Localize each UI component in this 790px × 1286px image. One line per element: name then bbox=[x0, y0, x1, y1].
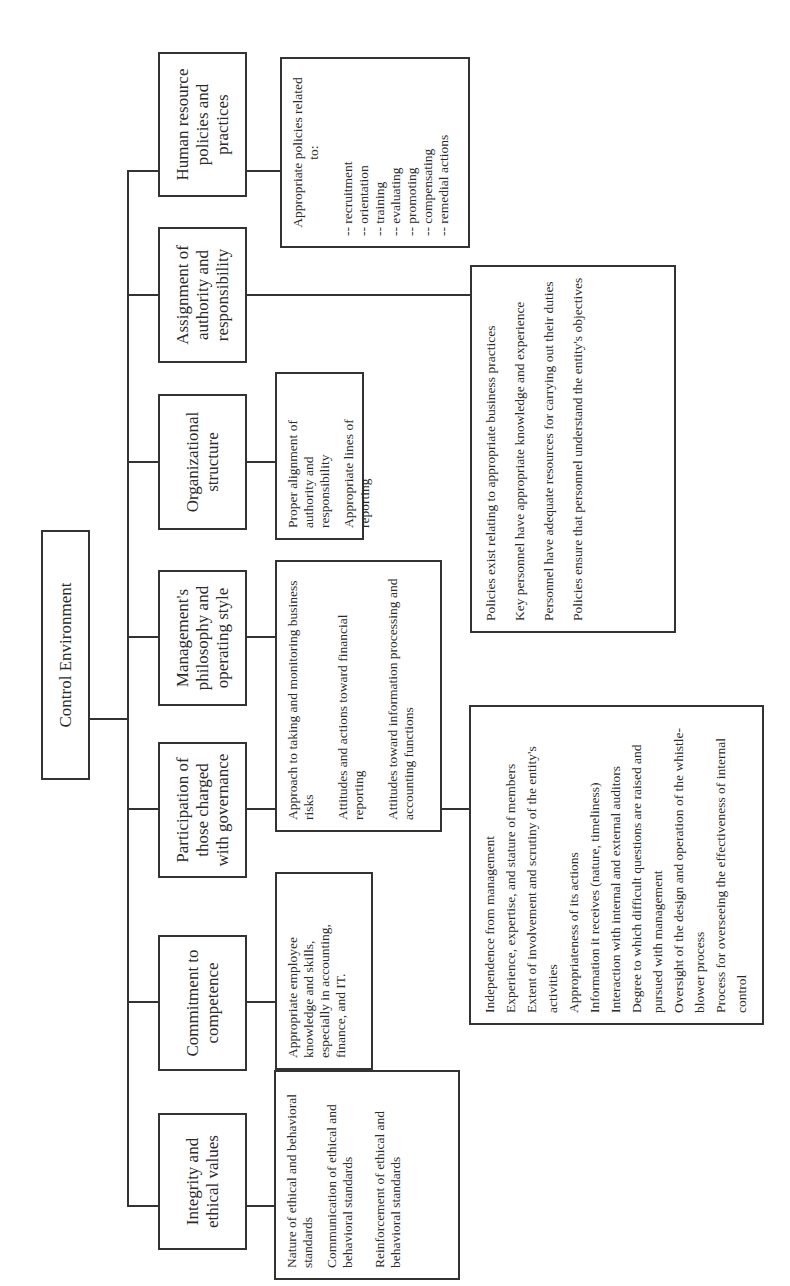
details-organizational: Proper alignment of authority and respon… bbox=[275, 372, 364, 540]
detail-item: Information it receives (nature, timelin… bbox=[584, 717, 605, 1013]
detail-item: Appropriate lines of reporting bbox=[341, 384, 373, 528]
spine-line bbox=[127, 171, 129, 1207]
node-label: Commitment to competence bbox=[183, 945, 223, 1061]
connector-assignment-details bbox=[247, 294, 470, 296]
connector-management bbox=[127, 636, 158, 638]
detail-item: Communication of ethical and behavioral … bbox=[324, 1082, 356, 1268]
detail-heading: Appropriate policies related to: bbox=[290, 69, 322, 236]
detail-item: Process for overseeing the effectiveness… bbox=[710, 717, 752, 1013]
connector-organizational-details bbox=[247, 461, 275, 463]
node-label: Management's philosophy and operating st… bbox=[173, 580, 233, 696]
node-label: Human resource policies and practices bbox=[173, 62, 233, 187]
node-label: Assignment of authority and responsibili… bbox=[173, 237, 233, 353]
connector-hr-details bbox=[247, 170, 280, 172]
detail-item: Degree to which difficult questions are … bbox=[626, 717, 668, 1013]
connector-organizational bbox=[127, 461, 158, 463]
node-label: Integrity and ethical values bbox=[183, 1123, 223, 1240]
node-organizational-structure: Organizational structure bbox=[158, 394, 247, 530]
node-label: Organizational structure bbox=[183, 404, 223, 520]
detail-item: Nature of ethical and behavioral standar… bbox=[284, 1082, 316, 1268]
details-integrity: Nature of ethical and behavioral standar… bbox=[274, 1070, 460, 1280]
control-environment-diagram: Control Environment Integrity and ethica… bbox=[0, 0, 790, 1286]
detail-item: Experience, expertise, and stature of me… bbox=[500, 717, 521, 1013]
detail-item: Attitudes and actions toward financial r… bbox=[335, 572, 367, 820]
node-commitment-to-competence: Commitment to competence bbox=[158, 935, 247, 1071]
details-competence: Appropriate employee knowledge and skill… bbox=[275, 872, 373, 1070]
detail-item: Policies ensure that personnel understan… bbox=[567, 277, 588, 621]
node-participation-governance: Participation of those charged with gove… bbox=[158, 742, 247, 878]
detail-item: Oversight of the design and operation of… bbox=[668, 717, 710, 1013]
node-integrity-ethical-values: Integrity and ethical values bbox=[158, 1113, 247, 1250]
detail-item: Appropriateness of its actions bbox=[563, 717, 584, 1013]
connector-integrity-details bbox=[247, 1205, 274, 1207]
node-human-resource-policies: Human resource policies and practices bbox=[158, 52, 247, 197]
node-label: Participation of those charged with gove… bbox=[173, 752, 233, 868]
detail-item: Extent of involvement and scrutiny of th… bbox=[521, 717, 563, 1013]
details-assignment: Policies exist relating to appropriate b… bbox=[470, 265, 676, 633]
detail-item: Personnel have adequate resources for ca… bbox=[538, 277, 559, 621]
root-label: Control Environment bbox=[56, 583, 76, 728]
detail-item: Interaction with internal and external a… bbox=[605, 717, 626, 1013]
detail-item: -- remedial actions bbox=[436, 69, 452, 236]
root-node-control-environment: Control Environment bbox=[41, 530, 90, 780]
detail-item: Policies exist relating to appropriate b… bbox=[480, 277, 501, 621]
detail-item: Reinforcement of ethical and behavioral … bbox=[372, 1082, 404, 1268]
details-hr: Appropriate policies related to: -- recr… bbox=[280, 57, 470, 248]
details-governance: Independence from management Experience,… bbox=[469, 705, 764, 1025]
connector-assignment bbox=[127, 294, 158, 296]
detail-item: Key personnel have appropriate knowledge… bbox=[509, 277, 530, 621]
detail-item: Attitudes toward information processing … bbox=[385, 572, 417, 820]
detail-item: -- training bbox=[372, 69, 388, 236]
connector-governance bbox=[127, 808, 158, 810]
node-assignment-authority: Assignment of authority and responsibili… bbox=[158, 227, 247, 363]
connector-management-details bbox=[247, 636, 275, 638]
detail-item: Approach to taking and monitoring busine… bbox=[285, 572, 317, 820]
connector-competence bbox=[127, 1001, 158, 1003]
connector-competence-details bbox=[247, 1001, 275, 1003]
details-management: Approach to taking and monitoring busine… bbox=[275, 560, 442, 832]
cropped-title bbox=[0, 256, 7, 956]
detail-item: Appropriate employee knowledge and skill… bbox=[285, 884, 349, 1058]
detail-item: -- recruitment bbox=[340, 69, 356, 236]
node-management-philosophy: Management's philosophy and operating st… bbox=[158, 570, 247, 706]
detail-item: -- evaluating bbox=[388, 69, 404, 236]
detail-item: -- compensating bbox=[420, 69, 436, 236]
detail-item: Proper alignment of authority and respon… bbox=[285, 384, 333, 528]
root-connector bbox=[90, 718, 129, 720]
detail-item: Independence from management bbox=[479, 717, 500, 1013]
connector-hr bbox=[127, 170, 158, 172]
connector-integrity bbox=[127, 1205, 158, 1207]
detail-item: -- orientation bbox=[356, 69, 372, 236]
detail-item: -- promoting bbox=[404, 69, 420, 236]
